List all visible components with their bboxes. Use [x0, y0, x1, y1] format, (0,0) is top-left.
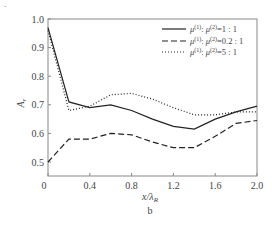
y-tick-label: 0.8 [32, 71, 45, 82]
legend-label-2: μ(1): μ(2)=0.2 : 1 [189, 36, 243, 46]
y-tick-label: 0.6 [32, 128, 45, 139]
x-tick-label: 0.8 [125, 180, 138, 191]
y-tick-label: 0.5 [32, 157, 45, 168]
legend-label-1: μ(1): μ(2)=1 : 1 [189, 24, 237, 34]
panel-label: b [148, 205, 153, 216]
x-axis-label: x/λR [141, 191, 159, 204]
line-chart: 0.50.60.70.80.91.0 00.40.81.21.62.0 ˊ Ar… [0, 0, 272, 227]
y-axis-label: Ar [15, 98, 28, 108]
x-tick-label: 0 [42, 180, 47, 191]
corner-mark: ˊ [4, 4, 6, 12]
y-tick-label: 0.7 [32, 99, 45, 110]
y-tick-label: 0.9 [32, 42, 45, 53]
x-tick-label: 2.0 [251, 180, 264, 191]
legend: μ(1): μ(2)=1 : 1 μ(1): μ(2)=0.2 : 1 μ(1)… [162, 24, 243, 57]
x-tick-label: 0.4 [84, 180, 97, 191]
legend-label-3: μ(1): μ(2)=5 : 1 [189, 47, 237, 57]
series-line-dashed [48, 121, 257, 163]
x-tick-label: 1.6 [209, 180, 222, 191]
x-tick-label: 1.2 [167, 180, 180, 191]
y-tick-label: 1.0 [32, 14, 45, 25]
